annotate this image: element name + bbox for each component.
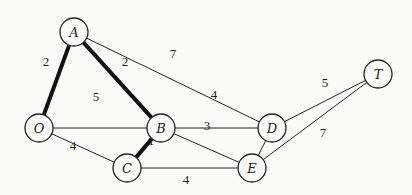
edge-weight-a-d: 7 <box>170 46 177 61</box>
node-d: D <box>258 114 286 142</box>
edge-weight-b-e: 3 <box>204 118 211 133</box>
edge-weight-c-e: 4 <box>183 172 190 187</box>
edge-weight-o-b: 5 <box>93 89 100 104</box>
edge-weight-d-t: 5 <box>322 75 329 90</box>
node-t: T <box>364 60 392 88</box>
node-o: O <box>25 114 53 142</box>
graph-diagram: 227541434157 AOBCDET <box>0 0 412 195</box>
nodes: AOBCDET <box>25 18 392 182</box>
node-label: T <box>374 67 384 82</box>
edge-b-e <box>174 134 239 163</box>
node-label: E <box>246 161 257 176</box>
edge-weights: 227541434157 <box>43 46 329 187</box>
node-b: B <box>147 114 175 142</box>
node-label: C <box>122 161 132 176</box>
node-label: O <box>34 121 45 136</box>
node-label: A <box>68 25 78 40</box>
edge-weight-o-a: 2 <box>43 54 50 69</box>
edge-a-b <box>83 42 151 117</box>
node-a: A <box>60 18 88 46</box>
edge-weight-a-b: 2 <box>122 54 129 69</box>
node-e: E <box>238 154 266 182</box>
edge-weight-o-c: 4 <box>70 138 77 153</box>
edge-d-e <box>258 141 265 156</box>
edge-weight-b-d: 4 <box>211 87 218 102</box>
node-label: B <box>155 121 166 136</box>
node-label: D <box>266 121 278 136</box>
edge-weight-e-t: 7 <box>320 125 327 140</box>
edge-o-c <box>52 134 115 162</box>
node-c: C <box>113 154 141 182</box>
